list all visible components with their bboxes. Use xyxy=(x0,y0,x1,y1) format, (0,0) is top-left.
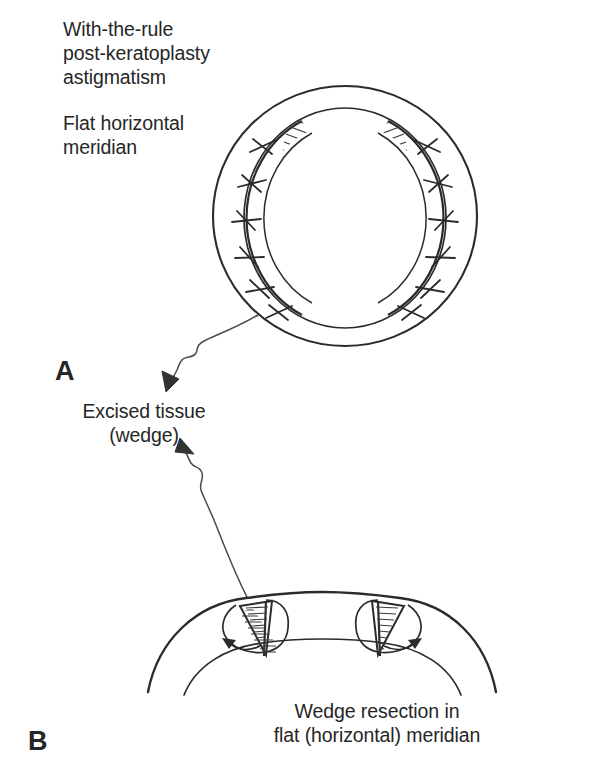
suture-mark xyxy=(424,175,452,192)
suture-mark xyxy=(426,247,455,267)
panel-b-caption: Wedge resection in flat (horizontal) mer… xyxy=(227,700,527,748)
meridian-annotation: Flat horizontal meridian xyxy=(63,112,184,160)
suture-group-left xyxy=(232,139,292,320)
wedge-left-hatch xyxy=(281,118,340,322)
wedge-b-left xyxy=(222,600,288,656)
figure-root: With-the-rule post-keratoplasty astigmat… xyxy=(0,0,597,778)
panel-a-diagram xyxy=(213,86,477,346)
suture-mark xyxy=(238,175,266,192)
panel-b-diagram xyxy=(148,592,496,695)
arrow-section-to-wedge xyxy=(175,438,247,597)
cornea-outer-arc xyxy=(148,592,496,692)
suture-mark xyxy=(398,305,424,320)
limbus-outline xyxy=(213,86,477,346)
cornea-inner-arc xyxy=(184,639,461,695)
wedge-right-hatch xyxy=(350,118,409,322)
wedge-left xyxy=(247,118,340,322)
suture-mark xyxy=(266,305,292,320)
panel-a-letter: A xyxy=(55,355,75,388)
wedge-right xyxy=(350,118,443,322)
excised-tissue-annotation: Excised tissue (wedge) xyxy=(49,400,239,448)
suture-group-right xyxy=(398,139,458,320)
wedge-b-right xyxy=(356,600,422,656)
suture-mark xyxy=(235,247,264,267)
panel-b-letter: B xyxy=(28,725,48,758)
arrow-graft-to-excised xyxy=(162,315,258,392)
title-annotation: With-the-rule post-keratoplasty astigmat… xyxy=(63,18,210,89)
